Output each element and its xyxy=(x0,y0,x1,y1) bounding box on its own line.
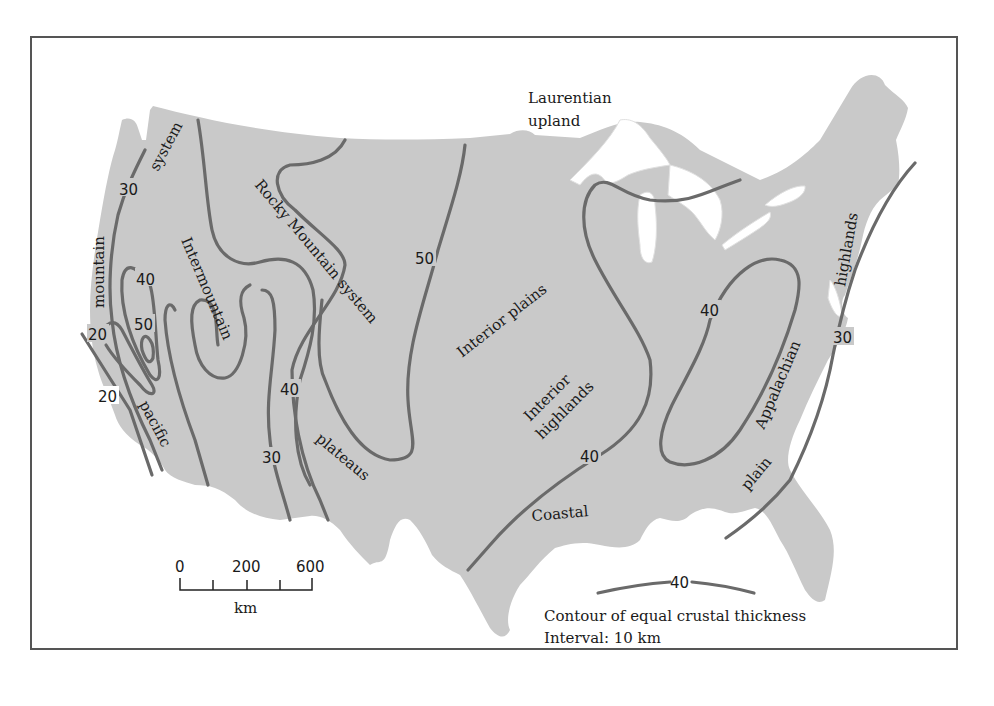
scale-tick-0: 0 xyxy=(175,558,185,576)
label-laurentian: Laurentian xyxy=(528,89,612,107)
label-upland: upland xyxy=(528,112,581,130)
legend-line-2: Interval: 10 km xyxy=(544,629,661,647)
lake-michigan xyxy=(638,192,657,263)
legend-sample-contour-right xyxy=(692,582,754,593)
legend-sample-value: 40 xyxy=(670,574,689,592)
contour-label-50-w: 50 xyxy=(134,316,153,334)
scale-unit-km: km xyxy=(234,599,257,617)
legend: 40 Contour of equal crustal thickness In… xyxy=(544,574,806,647)
crustal-thickness-map: Laurentian upland system mountain pacifi… xyxy=(0,0,994,706)
scale-tick-600: 600 xyxy=(296,558,325,576)
contour-label-40-w: 40 xyxy=(136,271,155,289)
contour-label-20-b: 20 xyxy=(98,388,117,406)
scale-bar-line xyxy=(180,578,312,590)
contour-label-30-nw: 30 xyxy=(119,181,138,199)
contour-label-50-c: 50 xyxy=(415,250,434,268)
contour-label-40-e: 40 xyxy=(700,302,719,320)
contour-label-30-c: 30 xyxy=(262,449,281,467)
legend-line-1: Contour of equal crustal thickness xyxy=(544,607,806,625)
scale-bar: 0 200 600 km xyxy=(175,558,325,617)
legend-sample-contour xyxy=(598,582,670,593)
contour-label-20-a: 20 xyxy=(88,326,107,344)
scale-tick-200: 200 xyxy=(232,558,261,576)
contour-label-30-e: 30 xyxy=(833,329,852,347)
contour-label-40-c: 40 xyxy=(280,381,299,399)
label-pacific-mountain: mountain xyxy=(90,236,108,308)
contour-label-40-s: 40 xyxy=(580,448,599,466)
